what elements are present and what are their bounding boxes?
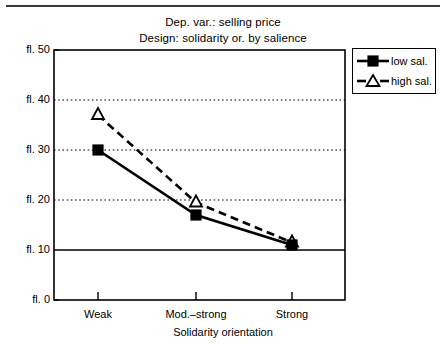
legend-label-high-sal: high sal. — [391, 75, 432, 87]
ytick-label-fl30: fl. 30 — [8, 143, 50, 155]
marker-low-sal-strong — [287, 240, 297, 250]
plot-frame — [54, 50, 345, 300]
line-chart: fl. 50 fl. 40 fl. 30 fl. 20 fl. 10 fl. 0… — [0, 0, 446, 357]
ytick-label-fl0: fl. 0 — [8, 293, 50, 305]
marker-low-sal-weak — [93, 145, 103, 155]
ytick-label-fl10: fl. 10 — [8, 243, 50, 255]
x-axis-title: Solidarity orientation — [0, 326, 446, 338]
chart-legend: low sal. high sal. — [352, 48, 436, 94]
legend-key-dashed-triangle-icon — [356, 73, 390, 89]
ytick-label-fl40: fl. 40 — [8, 93, 50, 105]
xtick-label-weak: Weak — [58, 308, 138, 320]
legend-item-low-sal: low sal. — [356, 50, 428, 71]
marker-low-sal-mod-strong — [191, 210, 201, 220]
legend-key-solid-square-icon — [356, 53, 390, 69]
ytick-label-fl50: fl. 50 — [8, 43, 50, 55]
legend-item-high-sal: high sal. — [356, 70, 432, 91]
ytick-label-fl20: fl. 20 — [8, 193, 50, 205]
xtick-label-mod-strong: Mod.–strong — [146, 308, 246, 320]
legend-label-low-sal: low sal. — [391, 55, 428, 67]
xtick-label-strong: Strong — [252, 308, 332, 320]
